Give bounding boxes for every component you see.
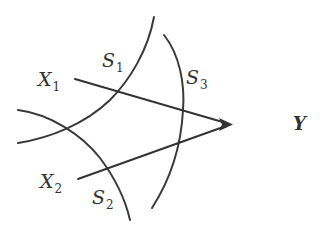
label-x2-main: X [40, 170, 54, 192]
label-x1: X1 [38, 70, 60, 89]
label-s1: S1 [102, 51, 124, 70]
label-s2-main: S [92, 186, 105, 208]
label-x1-main: X [38, 68, 52, 90]
label-s3-main: S [186, 66, 199, 88]
label-y-main: Y [293, 113, 306, 134]
label-s2-sub: 2 [106, 198, 114, 212]
ray-x2-to-y [78, 126, 226, 179]
label-y: Y [293, 115, 306, 133]
label-s1-main: S [102, 49, 115, 71]
curve-s3 [152, 35, 183, 208]
label-x1-sub: 1 [53, 80, 61, 94]
label-s3: S3 [186, 68, 208, 87]
label-s1-sub: 1 [116, 61, 124, 75]
diagram-canvas [0, 0, 320, 228]
label-s2: S2 [92, 188, 114, 207]
label-s3-sub: 3 [200, 78, 208, 92]
arrowhead-icon [219, 118, 233, 131]
label-x2: X2 [40, 172, 62, 191]
label-x2-sub: 2 [55, 182, 63, 196]
